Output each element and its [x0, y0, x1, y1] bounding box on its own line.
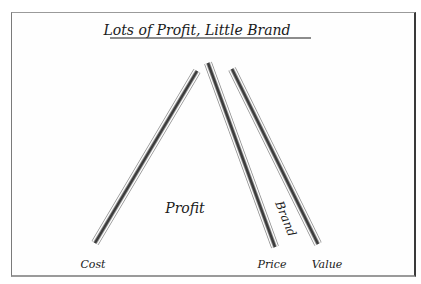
price-label: Price	[257, 258, 287, 271]
diagram-canvas: Lots of Profit, Little Brand Profit Bran…	[0, 0, 421, 284]
cost-bar	[95, 71, 197, 243]
value-label: Value	[312, 258, 343, 271]
cost-label: Cost	[80, 258, 106, 271]
profit-label: Profit	[164, 200, 205, 216]
diagram-title: Lots of Profit, Little Brand	[103, 22, 291, 38]
